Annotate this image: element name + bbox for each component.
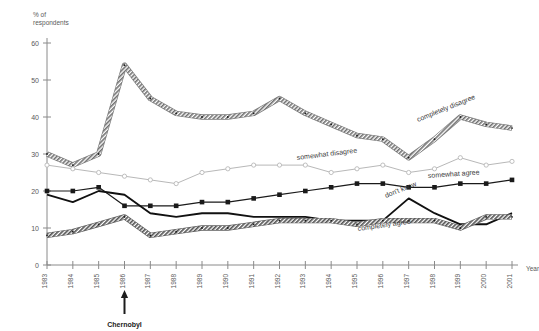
data-point-marker (175, 112, 177, 114)
data-point-marker (304, 220, 306, 222)
x-tick-label: 1992 (274, 274, 281, 289)
data-point-marker (46, 153, 48, 155)
data-point-marker (511, 127, 513, 129)
data-point-marker (485, 216, 487, 218)
series-completely-disagree (46, 64, 513, 166)
data-point-marker (200, 200, 205, 205)
series-band-hatch (47, 65, 512, 165)
y-tick-label: 20 (31, 188, 39, 195)
data-point-marker (459, 116, 461, 118)
data-point-marker (355, 167, 359, 171)
x-tick-label: 1997 (403, 274, 410, 289)
data-point-marker (432, 185, 437, 190)
data-point-marker (98, 223, 100, 225)
y-tick-label: 30 (31, 151, 39, 158)
data-point-marker (330, 124, 332, 126)
data-point-marker (226, 200, 231, 205)
data-point-marker (174, 204, 179, 209)
data-point-marker (200, 170, 204, 174)
x-tick-label: 1988 (170, 274, 177, 289)
data-point-marker (46, 235, 48, 237)
x-axis-title: Year (526, 265, 539, 272)
line-chart: 0102030405060% ofrespondents198319841985… (0, 0, 539, 331)
data-point-marker (148, 178, 152, 182)
x-tick-label: 1986 (119, 274, 126, 289)
data-point-marker (71, 189, 76, 194)
data-point-marker (72, 164, 74, 166)
y-axis-title-line1: % of (33, 11, 46, 18)
data-point-marker (330, 220, 332, 222)
data-point-marker (148, 204, 153, 209)
y-tick-label: 0 (35, 262, 39, 269)
data-point-marker (251, 196, 256, 201)
data-point-marker (149, 98, 151, 100)
data-point-marker (175, 231, 177, 233)
data-point-marker (329, 185, 334, 190)
data-point-marker (226, 167, 230, 171)
data-point-marker (510, 178, 515, 183)
data-point-marker (432, 167, 436, 171)
data-point-marker (459, 227, 461, 229)
data-point-marker (458, 156, 462, 160)
data-point-marker (124, 216, 126, 218)
y-axis-title-line2: respondents (33, 19, 70, 27)
data-point-marker (381, 181, 386, 186)
data-point-marker (122, 204, 127, 209)
data-point-marker (356, 135, 358, 137)
data-point-marker (252, 163, 256, 167)
data-point-marker (277, 192, 282, 197)
data-point-marker (434, 138, 436, 140)
data-point-marker (407, 170, 411, 174)
x-tick-label: 1991 (248, 274, 255, 289)
x-tick-label: 1984 (67, 274, 74, 289)
data-point-marker (96, 185, 101, 190)
x-tick-label: 1985 (93, 274, 100, 289)
data-point-marker (279, 220, 281, 222)
data-point-marker (71, 167, 75, 171)
data-point-marker (329, 170, 333, 174)
chernobyl-annotation-label: Chernobyl (107, 321, 142, 329)
series-completely-agree (46, 216, 513, 236)
y-tick-label: 40 (31, 114, 39, 121)
data-point-marker (511, 216, 513, 218)
data-point-marker (201, 227, 203, 229)
data-point-marker (227, 227, 229, 229)
data-point-marker (45, 189, 50, 194)
data-point-marker (45, 163, 49, 167)
data-point-marker (382, 138, 384, 140)
data-point-marker (484, 181, 489, 186)
y-tick-label: 60 (31, 40, 39, 47)
x-tick-label: 1994 (325, 274, 332, 289)
data-point-marker (458, 181, 463, 186)
data-point-marker (174, 182, 178, 186)
data-point-marker (72, 231, 74, 233)
y-tick-label: 50 (31, 77, 39, 84)
x-tick-label: 1995 (351, 274, 358, 289)
data-point-marker (485, 124, 487, 126)
data-point-marker (124, 64, 126, 66)
data-point-marker (201, 116, 203, 118)
chernobyl-arrow-head (121, 290, 128, 298)
data-point-marker (408, 157, 410, 159)
x-tick-label: 1990 (222, 274, 229, 289)
data-point-marker (98, 153, 100, 155)
data-point-marker (97, 170, 101, 174)
x-tick-label: 1987 (144, 274, 151, 289)
data-point-marker (304, 112, 306, 114)
data-point-marker (510, 159, 514, 163)
data-point-marker (434, 220, 436, 222)
x-tick-label: 1989 (196, 274, 203, 289)
data-point-marker (253, 223, 255, 225)
series-label-don-t-know: don't know (384, 180, 418, 199)
x-tick-label: 1999 (454, 274, 461, 289)
data-point-marker (355, 181, 360, 186)
data-point-marker (277, 163, 281, 167)
series-band-outline (47, 65, 512, 165)
data-point-marker (303, 189, 308, 194)
data-point-marker (381, 163, 385, 167)
data-point-marker (227, 116, 229, 118)
x-tick-label: 1993 (299, 274, 306, 289)
y-tick-label: 10 (31, 225, 39, 232)
x-tick-label: 2000 (480, 274, 487, 289)
x-tick-label: 1998 (429, 274, 436, 289)
